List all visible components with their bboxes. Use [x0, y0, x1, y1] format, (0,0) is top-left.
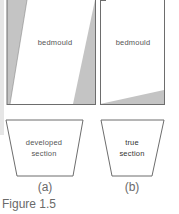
panel-b-plan-label: bedmould — [108, 38, 158, 48]
panel-a-right-wedge — [73, 0, 95, 104]
panel-a-section-label-line2: section — [16, 149, 72, 159]
panel-a-plan — [7, 0, 96, 105]
panel-a-sub-label: (a) — [30, 180, 60, 194]
panel-b-section-trapezoid — [101, 120, 164, 176]
panel-a-section-label-line1: developed — [16, 138, 72, 148]
figure-caption: Figure 1.5 — [2, 197, 56, 211]
panel-b-section-label-line1: true — [107, 138, 157, 148]
page-edge-shade — [0, 0, 4, 135]
panel-a-plan-label: bedmould — [30, 38, 80, 48]
figure-diagram — [0, 0, 179, 214]
panel-b-bottom-wedge — [100, 90, 164, 104]
panel-b-sub-label: (b) — [117, 180, 147, 194]
panel-a-left-wedge — [7, 0, 27, 104]
panel-b-section-label-line2: section — [107, 149, 157, 159]
panel-a-section-trapezoid — [6, 120, 83, 176]
panel-b-plan — [100, 0, 165, 105]
